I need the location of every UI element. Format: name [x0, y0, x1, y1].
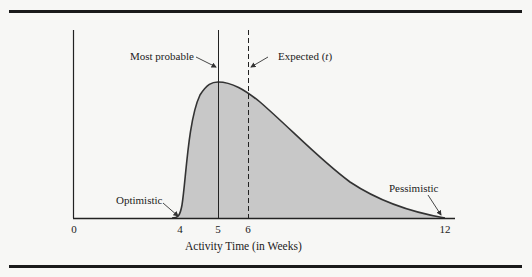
expected-label: Expected (t): [278, 51, 332, 62]
most-probable-arrow: [196, 57, 216, 67]
x-tick-5: 5: [215, 224, 221, 235]
x-tick-6: 6: [245, 224, 251, 235]
distribution-area: [172, 82, 445, 218]
beta-distribution-plot: [0, 0, 532, 277]
expected-arrow: [251, 57, 268, 67]
most-probable-label: Most probable: [130, 51, 194, 62]
optimistic-label: Optimistic: [116, 195, 162, 206]
optimistic-arrow: [163, 203, 178, 216]
x-axis-label: Activity Time (in Weeks): [185, 241, 302, 253]
x-tick-4: 4: [177, 224, 183, 235]
pessimistic-label: Pessimistic: [389, 183, 439, 194]
pessimistic-arrow: [428, 195, 441, 215]
x-tick-0: 0: [71, 224, 77, 235]
x-tick-12: 12: [440, 224, 451, 235]
